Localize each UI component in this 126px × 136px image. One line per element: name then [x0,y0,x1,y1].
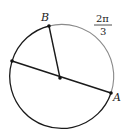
point-b [47,24,51,28]
arc-measure-numerator: 2π [96,13,109,24]
arc-measure-denominator: 3 [100,26,106,37]
diameter-line [12,61,111,93]
label-a: A [112,91,121,104]
label-b: B [40,11,49,24]
circle-diagram: B A 2π 3 [0,0,126,136]
point-left [10,59,14,63]
radius-to-b [49,26,60,78]
point-center [58,76,62,80]
